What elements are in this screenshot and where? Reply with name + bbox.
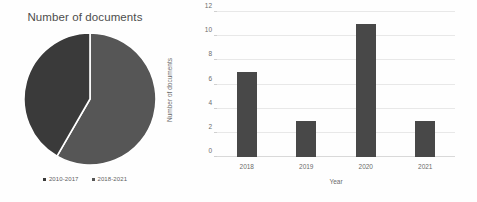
y-axis-tick-label: 4 — [208, 98, 212, 105]
legend-item-label: 2018-2021 — [98, 176, 128, 182]
bar-group: 2020 — [336, 12, 396, 157]
y-axis-tick-label: 0 — [208, 147, 212, 154]
bar-chart-panel: Number of documents 024681012 2018201920… — [170, 0, 477, 202]
pie-chart-legend: 2010-2017 2018-2021 — [0, 176, 170, 182]
x-axis-tick-label: 2021 — [418, 163, 432, 170]
bar-chart-x-axis-title: Year — [217, 178, 455, 185]
bars-layer: 2018201920202021 — [217, 12, 455, 157]
y-axis-tick-label: 2 — [208, 122, 212, 129]
bar[interactable] — [415, 121, 435, 157]
figure-container: Number of documents 2010-2017 2018-2021 … — [0, 0, 477, 202]
x-axis-tick-label: 2019 — [299, 163, 313, 170]
x-axis-tick-label: 2018 — [240, 163, 254, 170]
bar-group: 2019 — [277, 12, 337, 157]
pie-chart-title: Number of documents — [0, 11, 170, 23]
y-axis-tick-label: 12 — [205, 2, 212, 9]
y-axis-tick-label: 8 — [208, 50, 212, 57]
bar[interactable] — [237, 72, 257, 157]
bar-group: 2018 — [217, 12, 277, 157]
bar-group: 2021 — [396, 12, 456, 157]
pie-slices — [24, 33, 156, 165]
bar[interactable] — [296, 121, 316, 157]
pie-chart-graphic — [23, 32, 157, 166]
pie-svg — [23, 32, 157, 166]
bar[interactable] — [356, 24, 376, 157]
bar-chart-y-axis-title: Number of documents — [166, 50, 173, 130]
y-axis-tick-label: 6 — [208, 74, 212, 81]
legend-item-label: 2010-2017 — [49, 176, 79, 182]
bar-chart-plot-area: 024681012 2018201920202021 — [217, 12, 455, 157]
legend-swatch-icon — [43, 178, 46, 181]
legend-swatch-icon — [92, 178, 95, 181]
legend-item-2018-2021[interactable]: 2018-2021 — [92, 176, 128, 182]
y-axis-tick-label: 10 — [205, 26, 212, 33]
legend-item-2010-2017[interactable]: 2010-2017 — [43, 176, 79, 182]
x-axis-tick-label: 2020 — [359, 163, 373, 170]
pie-chart-panel: Number of documents 2010-2017 2018-2021 — [0, 0, 170, 202]
